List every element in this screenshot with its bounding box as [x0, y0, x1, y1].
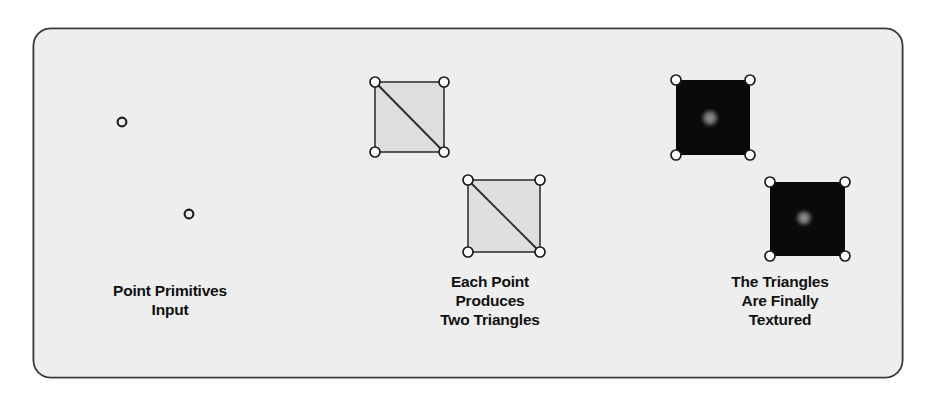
textured-vertex-bottom-right-2	[840, 251, 850, 261]
textured-vertex-bottom-right-1	[745, 150, 755, 160]
quad-vertex-bottom-left-2	[463, 247, 473, 257]
textured-vertex-bottom-left-1	[671, 150, 681, 160]
sprite-texture-blob-2	[796, 210, 813, 227]
quad-vertex-bottom-right-2	[535, 247, 545, 257]
textured-vertex-top-left-1	[671, 75, 681, 85]
sprite-texture-blob-1	[701, 109, 719, 127]
textured-quad-1	[671, 75, 755, 160]
point-primitive-2	[185, 210, 194, 219]
point-primitive-1	[118, 118, 127, 127]
figure-root: Point Primitives Input Each Point Produc…	[0, 0, 938, 400]
quad-vertex-top-right-2	[535, 175, 545, 185]
wireframe-quad-2	[463, 175, 545, 257]
textured-vertex-top-right-2	[840, 177, 850, 187]
quad-vertex-bottom-left-1	[370, 147, 380, 157]
quad-vertex-top-left-1	[370, 77, 380, 87]
textured-vertex-bottom-left-2	[765, 251, 775, 261]
caption-each-point-produces-two-triangles: Each Point Produces Two Triangles	[382, 272, 598, 329]
pipeline-diagram	[0, 0, 938, 400]
textured-vertex-top-left-2	[765, 177, 775, 187]
textured-vertex-top-right-1	[745, 75, 755, 85]
wireframe-quad-1	[370, 77, 449, 157]
caption-the-triangles-are-finally-textured: The Triangles Are Finally Textured	[672, 272, 888, 329]
quad-vertex-top-right-1	[439, 77, 449, 87]
caption-point-primitives-input: Point Primitives Input	[62, 281, 278, 319]
quad-vertex-bottom-right-1	[439, 147, 449, 157]
textured-quad-2	[765, 177, 850, 261]
quad-vertex-top-left-2	[463, 175, 473, 185]
